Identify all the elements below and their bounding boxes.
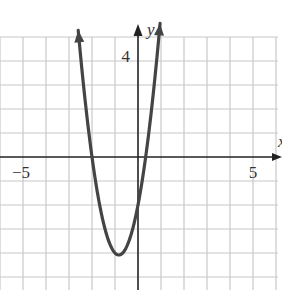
x-tick-label-5: 5 — [249, 163, 258, 182]
x-axis-label: x — [277, 132, 282, 151]
x-tick-label-neg5: −5 — [12, 163, 30, 182]
parabola-graph: −5 5 4 y x — [0, 0, 282, 290]
grid-lines — [0, 37, 278, 290]
y-axis-label: y — [145, 20, 155, 39]
y-tick-label-4: 4 — [122, 47, 131, 66]
parabola-curve — [78, 23, 160, 255]
axes — [0, 24, 282, 290]
